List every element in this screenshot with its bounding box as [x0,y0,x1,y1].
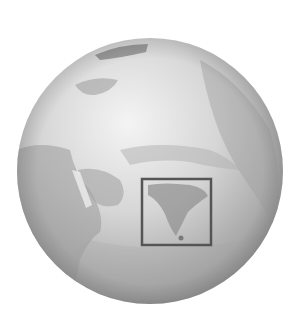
globe-rim-shadow [17,38,283,304]
globe-figure: India [0,0,298,315]
globe-svg [0,0,298,315]
